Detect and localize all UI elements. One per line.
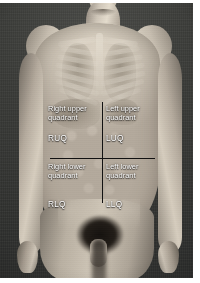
abbreviation-ruq: RUQ: [48, 134, 67, 143]
quadrant-vertical-line: [102, 102, 103, 203]
label-right-upper-quadrant: Right upper quadrant: [48, 104, 100, 122]
label-left-lower-quadrant: Left lower quadrant: [106, 162, 158, 180]
photo-plate: Right upper quadrant RUQ Left upper quad…: [0, 3, 193, 278]
abbreviation-rlq: RLQ: [48, 200, 66, 209]
quadrant-horizontal-line: [50, 158, 155, 159]
abbreviation-llq: LLQ: [106, 200, 122, 209]
abbreviation-luq: LUQ: [106, 134, 124, 143]
anatomy-figure: Right upper quadrant RUQ Left upper quad…: [0, 0, 200, 283]
label-left-upper-quadrant: Left upper quadrant: [106, 104, 158, 122]
label-right-lower-quadrant: Right lower quadrant: [48, 162, 100, 180]
vignette: [0, 3, 193, 278]
